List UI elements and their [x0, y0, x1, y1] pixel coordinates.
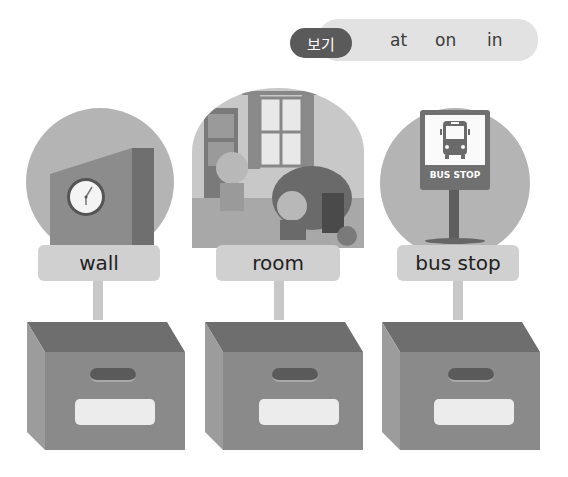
- word-bank-tag: 보기: [290, 28, 352, 58]
- word-on: on: [435, 30, 456, 50]
- box-handle: [90, 368, 136, 382]
- answer-slot-3[interactable]: [434, 399, 514, 425]
- bus-stop-sign-text: BUS STOP: [420, 170, 490, 180]
- word-at: at: [390, 30, 407, 50]
- sign-base: [425, 238, 485, 244]
- bus-icon: [425, 115, 485, 165]
- bus-stop-sign: BUS STOP: [420, 110, 490, 190]
- room-illustration: [192, 88, 364, 248]
- word-in: in: [487, 30, 503, 50]
- box-handle: [272, 368, 318, 382]
- sign-pole: [449, 190, 459, 240]
- box-handle: [448, 368, 494, 382]
- bus-stop-post: [453, 280, 463, 320]
- clock-icon: [66, 177, 106, 217]
- answer-slot-2[interactable]: [259, 399, 339, 425]
- answer-box-3[interactable]: [382, 322, 542, 452]
- label-room: room: [216, 245, 340, 281]
- answer-box-1[interactable]: [27, 322, 187, 452]
- label-wall: wall: [38, 245, 160, 281]
- room-post: [274, 280, 284, 320]
- wall-post: [93, 280, 103, 320]
- answer-box-2[interactable]: [205, 322, 365, 452]
- answer-slot-1[interactable]: [75, 399, 155, 425]
- label-bus-stop: bus stop: [397, 245, 519, 281]
